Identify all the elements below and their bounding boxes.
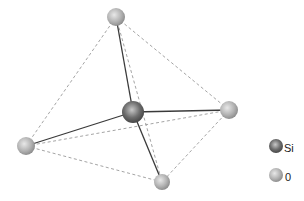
edge-top-right xyxy=(116,17,229,110)
edge-right-bottom xyxy=(162,110,229,182)
tetrahedron-diagram xyxy=(0,0,304,201)
oxygen-atom-right xyxy=(220,101,238,119)
legend xyxy=(269,139,283,182)
atoms xyxy=(17,8,238,190)
bond-si-top xyxy=(116,17,133,112)
bond-si-right xyxy=(133,110,229,112)
oxygen-atom-left xyxy=(17,137,35,155)
bond-si-left xyxy=(26,112,133,146)
legend-o-label: 0 xyxy=(285,171,291,183)
edge-left-bottom xyxy=(26,146,162,182)
edge-top-bottom xyxy=(116,17,162,182)
oxygen-atom-bottom xyxy=(154,174,170,190)
edge-top-left xyxy=(26,17,116,146)
dashed-edges xyxy=(26,17,229,182)
bonds xyxy=(26,17,229,182)
legend-o-swatch xyxy=(269,168,283,182)
silicon-atom-center xyxy=(122,101,144,123)
legend-si-label: Si xyxy=(284,142,294,154)
legend-si-swatch xyxy=(269,139,283,153)
oxygen-atom-top xyxy=(107,8,125,26)
